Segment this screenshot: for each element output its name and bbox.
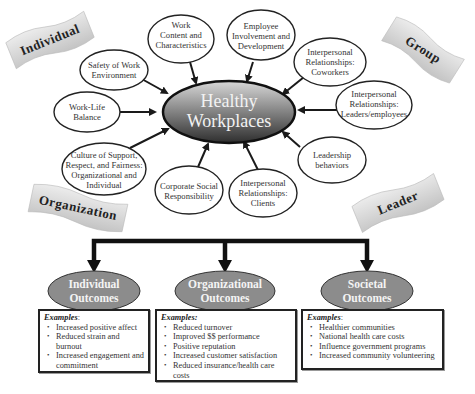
list-item: Increased customer satisfaction <box>173 351 291 361</box>
examples-label-text: Examples: <box>161 313 197 322</box>
examples-label-suffix: : <box>341 313 343 322</box>
list-item: Reduced insurance/health care costs <box>173 361 291 380</box>
examples-label: Examples: <box>161 313 291 323</box>
list-item: Positive reputation <box>173 342 291 352</box>
list-item: Influence government programs <box>319 342 438 352</box>
factor-node-clients: Interpersonal Relationships: Clients <box>229 169 297 217</box>
factor-node-csr: Corporate Social Responsibility <box>155 166 223 214</box>
factor-employee-involvement-line1: Employee <box>244 21 279 31</box>
factor-culture-line4: Individual <box>86 180 122 190</box>
factor-node-work-life: Work-Life Balance <box>54 92 120 132</box>
factor-clients-line2: Relationships: <box>238 188 287 198</box>
center-node-healthy-workplaces: Healthy Workplaces <box>163 81 295 143</box>
list-item: Increased engagement and commitment <box>56 351 144 370</box>
factor-coworkers-line3: Coworkers <box>311 67 349 77</box>
factor-work-content-line1: Work <box>172 20 192 30</box>
outcome-box-individual: Examples: Increased positive affect Redu… <box>38 309 150 373</box>
factor-safety-line2: Environment <box>92 70 137 80</box>
factor-culture-line3: Organizational and <box>71 170 137 180</box>
examples-label-suffix: : <box>78 313 80 322</box>
arrow-clients <box>244 142 258 170</box>
factor-work-content-line3: Characteristics <box>155 40 207 50</box>
factor-node-safety: Safety of Work Environment <box>80 50 148 90</box>
list-item: Reduced turnover <box>173 323 291 333</box>
examples-list: Increased positive affect Reduced strain… <box>44 323 144 371</box>
center-title-line2: Workplaces <box>187 111 272 131</box>
outcome-organizational-title-line2: Outcomes <box>200 292 250 304</box>
factor-culture-line1: Culture of Support, <box>71 150 138 160</box>
arrow-csr <box>198 144 208 167</box>
factor-safety-line1: Safety of Work <box>88 60 141 70</box>
factor-node-culture: Culture of Support, Respect, and Fairnes… <box>62 143 146 195</box>
examples-label-text: Examples <box>44 313 78 322</box>
outcome-node-societal: Societal Outcomes <box>321 271 413 311</box>
factor-leadership-behaviors-line2: behaviors <box>315 160 349 170</box>
factor-leadership-behaviors-line1: Leadership <box>313 150 351 160</box>
outcome-connector <box>94 241 367 262</box>
list-item: Healthier communities <box>319 323 438 333</box>
factor-clients-line1: Interpersonal <box>240 178 286 188</box>
factor-leaders-employees-line1: Interpersonal <box>351 89 397 99</box>
examples-label: Examples: <box>307 313 438 323</box>
factor-node-work-content: Work Content and Characteristics <box>148 15 214 63</box>
factor-leaders-employees-line3: Leaders/employees <box>341 109 408 119</box>
list-item: Reduced strain and burnout <box>56 332 144 351</box>
outcome-organizational-title-line1: Organizational <box>188 278 262 291</box>
factor-csr-line2: Responsibility <box>164 191 214 201</box>
list-item: Increased community volunteering <box>319 351 438 361</box>
list-item: National health care costs <box>319 332 438 342</box>
arrow-leadership-behaviors <box>283 132 300 147</box>
list-item: Increased positive affect <box>56 323 144 333</box>
list-item: Improved $$ performance <box>173 332 291 342</box>
arrow-coworkers <box>283 77 304 94</box>
factor-node-leaders-employees: Interpersonal Relationships: Leaders/emp… <box>336 81 412 129</box>
factor-node-employee-involvement: Employee Involvement and Development <box>227 10 295 60</box>
factor-work-content-line2: Content and <box>160 30 202 40</box>
arrow-employee-involvement <box>247 62 253 81</box>
factor-clients-line3: Clients <box>251 198 276 208</box>
outcome-individual-title-line2: Outcomes <box>69 292 119 304</box>
factor-culture-line2: Respect, and Fairness: <box>65 160 142 170</box>
factor-csr-line1: Corporate Social <box>160 181 219 191</box>
factor-leaders-employees-line2: Relationships: <box>349 99 398 109</box>
factor-coworkers-line2: Relationships: <box>305 57 354 67</box>
banner-leader: Leader <box>351 171 445 235</box>
outcome-individual-title-line1: Individual <box>68 278 119 290</box>
examples-label: Examples: <box>44 313 144 323</box>
outcome-node-individual: Individual Outcomes <box>48 271 140 311</box>
factor-employee-involvement-line2: Involvement and <box>232 31 291 41</box>
factor-node-coworkers: Interpersonal Relationships: Coworkers <box>294 38 366 86</box>
factor-work-life-line2: Balance <box>73 112 101 122</box>
outcome-box-organizational: Examples: Reduced turnover Improved $$ p… <box>155 309 297 382</box>
examples-list: Healthier communities National health ca… <box>307 323 438 361</box>
outcome-societal-title-line1: Societal <box>348 278 386 290</box>
arrow-culture <box>130 129 168 148</box>
outcome-box-societal: Examples: Healthier communities National… <box>301 309 444 370</box>
outcome-node-organizational: Organizational Outcomes <box>175 271 275 311</box>
banner-individual: Individual <box>5 9 96 72</box>
arrow-work-content <box>190 62 196 83</box>
factor-work-life-line1: Work-Life <box>69 102 105 112</box>
banner-group: Group <box>380 14 466 85</box>
examples-label-text: Examples <box>307 313 341 322</box>
factor-coworkers-line1: Interpersonal <box>307 47 353 57</box>
factor-employee-involvement-line3: Development <box>238 41 285 51</box>
factor-node-leadership-behaviors: Leadership behaviors <box>298 137 366 183</box>
center-title-line1: Healthy <box>201 91 258 111</box>
examples-list: Reduced turnover Improved $$ performance… <box>161 323 291 381</box>
outcome-societal-title-line2: Outcomes <box>342 292 392 304</box>
